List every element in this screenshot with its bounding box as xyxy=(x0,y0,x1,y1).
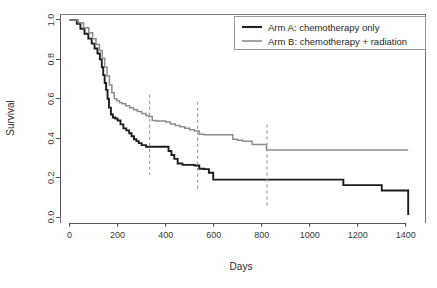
legend-label-arm-b: Arm B: chemotherapy + radiation xyxy=(268,36,407,47)
y-tick-label: 0.8 xyxy=(46,53,56,66)
x-tick-label: 600 xyxy=(206,230,221,240)
y-axis-title: Survival xyxy=(5,100,16,136)
x-tick-label: 0 xyxy=(67,230,72,240)
annotations-group xyxy=(150,95,267,206)
y-tick-label: 0.6 xyxy=(46,93,56,106)
x-tick-label: 1000 xyxy=(300,230,320,240)
x-axis-title: Days xyxy=(230,261,253,272)
y-tick-label: 0.2 xyxy=(46,171,56,184)
legend: Arm A: chemotherapy onlyArm B: chemother… xyxy=(234,16,425,49)
survival-plot-figure: 0.00.20.40.60.81.00200400600800100012001… xyxy=(0,0,437,288)
y-tick-label: 0.0 xyxy=(46,211,56,224)
x-tick-label: 800 xyxy=(254,230,269,240)
legend-label-arm-a: Arm A: chemotherapy only xyxy=(268,22,380,33)
y-tick-label: 0.4 xyxy=(46,132,56,145)
x-tick-label: 400 xyxy=(158,230,173,240)
x-tick-label: 1400 xyxy=(396,230,416,240)
y-tick-label: 1.0 xyxy=(46,14,56,27)
chart-canvas: 0.00.20.40.60.81.00200400600800100012001… xyxy=(0,0,437,288)
x-tick-label: 1200 xyxy=(348,230,368,240)
x-tick-label: 200 xyxy=(110,230,125,240)
